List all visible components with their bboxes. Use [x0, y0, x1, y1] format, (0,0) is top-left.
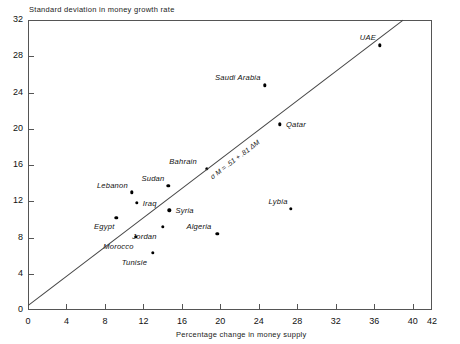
data-point-label: Tunisie: [122, 258, 147, 267]
y-tick-label: 0: [0, 304, 23, 314]
y-tick-label: 28: [0, 50, 23, 60]
y-tick-mark: [28, 56, 34, 57]
y-tick-label: 24: [0, 87, 23, 97]
data-point-label: Algeria: [186, 222, 211, 231]
y-tick-mark: [28, 165, 34, 166]
x-tick-mark: [259, 304, 260, 310]
data-point-label: Syria: [175, 206, 193, 215]
data-point-label: Egypt: [94, 222, 114, 231]
x-tick-label: 12: [129, 316, 157, 326]
x-tick-label: 16: [168, 316, 196, 326]
data-point-label: Lybia: [269, 197, 288, 206]
y-tick-mark: [28, 93, 34, 94]
data-point-label: Lebanon: [97, 181, 128, 190]
x-tick-mark: [220, 304, 221, 310]
data-point-label: Bahrain: [169, 157, 197, 166]
data-point-label: Jordan: [132, 232, 156, 241]
data-point-label: Iraq: [143, 199, 157, 208]
y-tick-label: 12: [0, 195, 23, 205]
x-tick-mark: [105, 304, 106, 310]
x-tick-label: 4: [52, 316, 80, 326]
x-tick-label: 24: [245, 316, 273, 326]
y-tick-label: 20: [0, 123, 23, 133]
y-tick-label: 8: [0, 232, 23, 242]
data-point-label: Saudi Arabia: [215, 73, 261, 82]
x-tick-label: 36: [360, 316, 388, 326]
x-axis-title: Percentage change in money supply: [176, 330, 307, 339]
y-tick-mark: [28, 274, 34, 275]
x-tick-label: 8: [91, 316, 119, 326]
x-tick-label: 32: [322, 316, 350, 326]
x-tick-mark: [374, 304, 375, 310]
y-tick-label: 32: [0, 14, 23, 24]
y-axis-title: Standard deviation in money growth rate: [29, 5, 175, 14]
data-point-label: Qatar: [286, 120, 306, 129]
x-tick-mark: [336, 304, 337, 310]
y-tick-mark: [28, 201, 34, 202]
x-tick-mark: [297, 304, 298, 310]
y-tick-label: 16: [0, 159, 23, 169]
x-tick-mark: [143, 304, 144, 310]
x-tick-mark: [413, 304, 414, 310]
x-tick-label: 20: [206, 316, 234, 326]
y-tick-mark: [28, 129, 34, 130]
x-tick-label: 28: [283, 316, 311, 326]
x-tick-label: 42: [418, 316, 446, 326]
x-tick-mark: [182, 304, 183, 310]
x-tick-label: 0: [14, 316, 42, 326]
y-tick-mark: [28, 238, 34, 239]
scatter-chart: Standard deviation in money growth rate …: [0, 0, 460, 344]
x-tick-mark: [66, 304, 67, 310]
data-point-label: Sudan: [141, 174, 164, 183]
y-tick-label: 4: [0, 268, 23, 278]
